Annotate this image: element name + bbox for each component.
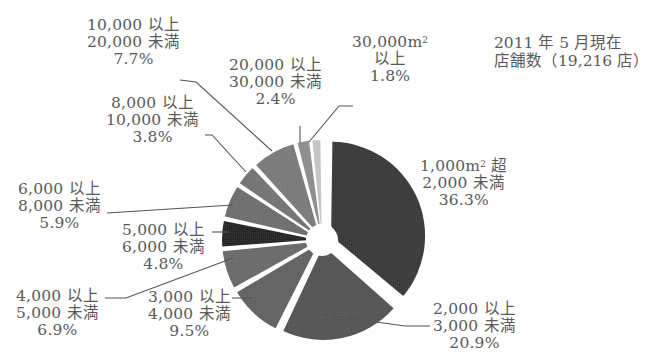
label-range-from: 20,000 以上 (229, 57, 322, 74)
label-range-to: 2,000 未満 (420, 175, 508, 192)
label-range-to: 20,000 未満 (87, 34, 180, 51)
label-range-to: 5,000 未満 (16, 305, 99, 322)
label-range-from: 30,000m2 (352, 34, 428, 51)
label-4000-5000: 4,000 以上 5,000 未満 6.9% (16, 288, 99, 339)
label-percent: 3.8% (106, 129, 199, 146)
label-percent: 6.9% (16, 322, 99, 339)
label-range-from: 1,000m2 超 (420, 158, 508, 175)
label-range-to: 8,000 未満 (18, 198, 101, 215)
label-20000-30000: 20,000 以上 30,000 未満 2.4% (229, 57, 322, 108)
label-percent: 20.9% (433, 335, 516, 352)
chart-note: 2011 年 5 月現在 店舗数（19,216 店） (494, 34, 649, 70)
label-percent: 7.7% (87, 51, 180, 68)
label-percent: 5.9% (18, 215, 101, 232)
label-range-from: 5,000 以上 (122, 222, 205, 239)
label-30000-plus: 30,000m2 以上 1.8% (352, 34, 428, 85)
label-range-to: 3,000 未満 (433, 318, 516, 335)
pie-slices (222, 140, 425, 340)
label-2000-3000: 2,000 以上 3,000 未満 20.9% (433, 301, 516, 352)
label-range-from: 6,000 以上 (18, 181, 101, 198)
label-percent: 1.8% (352, 68, 428, 85)
note-store-count: 店舗数（19,216 店） (494, 52, 649, 70)
label-range-from: 3,000 以上 (148, 289, 231, 306)
chart-title-cropped (130, 0, 460, 3)
label-range-to: 10,000 未満 (106, 112, 199, 129)
label-range-to: 4,000 未満 (148, 306, 231, 323)
label-8000-10000: 8,000 以上 10,000 未満 3.8% (106, 95, 199, 146)
leader-line-6000-8000 (107, 205, 233, 213)
label-range-from: 8,000 以上 (106, 95, 199, 112)
label-range-to: 6,000 未満 (122, 239, 205, 256)
leader-line-30000-plus (309, 106, 353, 142)
label-percent: 4.8% (122, 256, 205, 273)
label-range-to: 以上 (352, 51, 428, 68)
label-1000-2000: 1,000m2 超 2,000 未満 36.3% (420, 158, 508, 209)
label-range-to: 30,000 未満 (229, 74, 322, 91)
label-range-from: 2,000 以上 (433, 301, 516, 318)
label-range-from: 10,000 以上 (87, 17, 180, 34)
label-percent: 9.5% (148, 323, 231, 340)
leader-line-8000-10000 (205, 135, 246, 172)
label-percent: 36.3% (420, 192, 508, 209)
pie-center-hole (306, 224, 338, 256)
note-date: 2011 年 5 月現在 (494, 34, 649, 52)
label-range-from: 4,000 以上 (16, 288, 99, 305)
label-10000-20000: 10,000 以上 20,000 未満 7.7% (87, 17, 180, 68)
label-percent: 2.4% (229, 91, 322, 108)
label-3000-4000: 3,000 以上 4,000 未満 9.5% (148, 289, 231, 340)
label-5000-6000: 5,000 以上 6,000 未満 4.8% (122, 222, 205, 273)
label-6000-8000: 6,000 以上 8,000 未満 5.9% (18, 181, 101, 232)
